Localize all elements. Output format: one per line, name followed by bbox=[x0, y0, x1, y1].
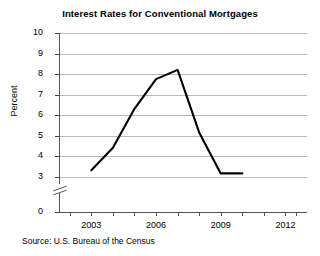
data-line bbox=[91, 70, 242, 174]
y-tick-label: 4 bbox=[19, 151, 43, 160]
x-tick-mark bbox=[285, 212, 286, 216]
x-tick-label: 2003 bbox=[71, 220, 111, 230]
source-note: Source: U.S. Bureau of the Census bbox=[22, 236, 155, 246]
x-tick-mark-minor bbox=[242, 212, 243, 216]
y-tick-label: 0 bbox=[19, 207, 43, 216]
x-tick-label: 2006 bbox=[136, 220, 176, 230]
x-tick-label: 2009 bbox=[201, 220, 241, 230]
y-axis-label: Percent bbox=[9, 71, 19, 131]
x-tick-mark bbox=[156, 212, 157, 216]
y-tick-label: 5 bbox=[19, 131, 43, 140]
plot-area: 1098765430 2003200620092012 bbox=[59, 33, 307, 212]
chart-figure: Interest Rates for Conventional Mortgage… bbox=[0, 0, 320, 256]
x-tick-mark bbox=[221, 212, 222, 216]
x-tick-mark-minor bbox=[70, 212, 71, 216]
x-tick-mark-minor bbox=[199, 212, 200, 216]
x-tick-mark-minor bbox=[113, 212, 114, 216]
x-tick-mark-minor bbox=[134, 212, 135, 216]
y-tick-label: 10 bbox=[19, 28, 43, 37]
x-tick-label: 2012 bbox=[265, 220, 305, 230]
x-tick-mark-minor bbox=[296, 212, 297, 216]
data-line-series bbox=[59, 33, 307, 212]
x-tick-mark-minor bbox=[178, 212, 179, 216]
y-tick-label: 7 bbox=[19, 90, 43, 99]
x-tick-mark bbox=[91, 212, 92, 216]
x-axis-line bbox=[59, 212, 307, 213]
y-tick-label: 6 bbox=[19, 110, 43, 119]
y-tick-label: 3 bbox=[19, 172, 43, 181]
chart-title: Interest Rates for Conventional Mortgage… bbox=[0, 8, 320, 19]
x-tick-mark-minor bbox=[264, 212, 265, 216]
y-tick-label: 9 bbox=[19, 49, 43, 58]
y-tick-label: 8 bbox=[19, 69, 43, 78]
